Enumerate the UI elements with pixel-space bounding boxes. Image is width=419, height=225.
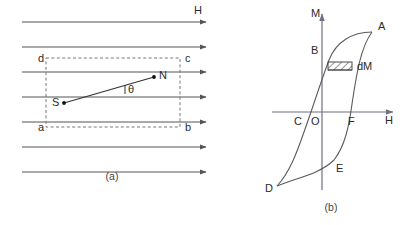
point-label-f: F bbox=[348, 115, 355, 127]
panel-b-group: M H dM A B C D E F O (b) bbox=[265, 7, 393, 213]
figure-page: H d c a b S N θ (a) M H bbox=[0, 0, 419, 225]
north-pole-dot bbox=[152, 75, 156, 79]
box-corner-label-c: c bbox=[185, 52, 191, 64]
field-lines-group bbox=[22, 22, 206, 172]
m-axis-label: M bbox=[311, 7, 320, 19]
h-axis-label: H bbox=[385, 114, 393, 126]
point-label-a: A bbox=[378, 20, 386, 32]
magnet-label-n: N bbox=[159, 69, 167, 81]
origin-label-o: O bbox=[311, 115, 320, 127]
box-corner-label-b: b bbox=[185, 121, 191, 133]
point-label-c: C bbox=[294, 115, 302, 127]
south-pole-dot bbox=[62, 101, 66, 105]
panel-b-caption: (b) bbox=[325, 201, 338, 213]
point-label-d: D bbox=[265, 182, 273, 194]
panel-a-caption: (a) bbox=[106, 170, 119, 182]
point-label-e: E bbox=[336, 162, 343, 174]
box-corner-label-d: d bbox=[38, 52, 44, 64]
field-h-label: H bbox=[194, 4, 202, 16]
magnet-bar bbox=[64, 77, 154, 103]
theta-label: θ bbox=[128, 83, 134, 95]
point-label-b: B bbox=[311, 44, 318, 56]
box-corner-label-a: a bbox=[38, 121, 45, 133]
magnet-label-s: S bbox=[52, 96, 59, 108]
hysteresis-branch-ascending bbox=[277, 32, 372, 186]
panel-a-group: H d c a b S N θ (a) bbox=[22, 4, 206, 182]
hysteresis-branch-descending bbox=[277, 32, 372, 186]
dm-label: dM bbox=[357, 60, 372, 72]
physics-figure: H d c a b S N θ (a) M H bbox=[0, 0, 419, 225]
dm-element-strip bbox=[328, 62, 352, 70]
